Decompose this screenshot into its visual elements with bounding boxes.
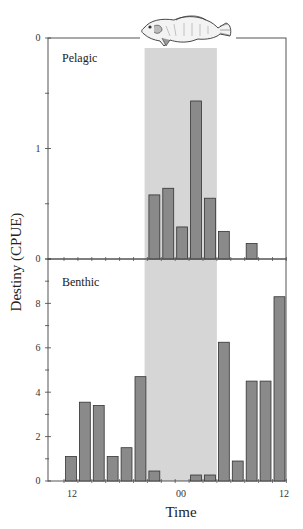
bar <box>93 406 104 481</box>
pelagic-ytick-top: 0 <box>36 32 41 43</box>
fish-icon <box>140 16 236 46</box>
bar <box>191 475 202 481</box>
bar <box>218 231 229 259</box>
benthic-ytick-0: 0 <box>36 475 41 486</box>
bar <box>177 227 188 259</box>
bar <box>260 381 271 481</box>
pelagic-ytick-0: 0 <box>36 253 41 264</box>
bar <box>232 461 243 481</box>
bar <box>218 342 229 481</box>
pelagic-label: Pelagic <box>62 51 97 65</box>
bar <box>246 381 257 481</box>
bar <box>205 475 216 481</box>
bar <box>66 457 77 481</box>
bar <box>274 297 285 481</box>
benthic-ytick-4: 4 <box>36 387 41 398</box>
bar <box>135 377 146 481</box>
benthic-ytick-8: 8 <box>36 298 41 309</box>
bar <box>121 448 132 481</box>
benthic-ytick-2: 2 <box>36 431 41 442</box>
bar <box>79 402 90 481</box>
night-shading <box>145 48 217 481</box>
benthic-label: Benthic <box>62 275 99 289</box>
bar <box>205 198 216 259</box>
bar <box>191 101 202 259</box>
benthic-ytick-6: 6 <box>36 342 41 353</box>
x-axis-title: Time <box>165 504 196 520</box>
y-axis-title: Destiny (CPUE) <box>8 213 25 312</box>
bar <box>149 195 160 259</box>
bar <box>246 244 257 259</box>
xtick-00: 00 <box>176 488 186 499</box>
xtick-12-right: 12 <box>279 488 289 499</box>
bar <box>149 471 160 481</box>
xtick-12-left: 12 <box>67 488 77 499</box>
pelagic-ytick-1: 1 <box>36 143 41 154</box>
night-shade-benthic <box>145 259 217 481</box>
bar <box>107 457 118 481</box>
bar <box>163 188 174 259</box>
figure: Pelagic 0 1 0 Benthic 0 2 4 6 8 12 00 12… <box>0 0 303 529</box>
